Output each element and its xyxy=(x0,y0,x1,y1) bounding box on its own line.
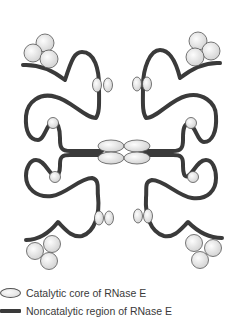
catalytic-core-upper-right xyxy=(124,140,150,152)
legend-label: Noncatalytic region of RNase E xyxy=(26,305,172,317)
thick-line-icon xyxy=(0,302,24,320)
ball-top-left-2 xyxy=(24,44,42,62)
ball-mid-lower-left xyxy=(50,172,61,183)
noncatalytic-strand-top-right xyxy=(140,50,220,151)
ball-bottom-left-1 xyxy=(44,236,61,253)
oval-pair-bottom-left-a xyxy=(95,211,104,225)
catalytic-core-lower-left xyxy=(98,152,124,164)
catalytic-core-lower-right xyxy=(124,152,150,164)
oval-pair-bottom-right-a xyxy=(134,209,143,223)
oval-pair-top-left-b xyxy=(104,78,113,92)
ball-top-left-3 xyxy=(40,50,58,68)
legend-item-catalytic-core: Catalytic core of RNase E xyxy=(0,284,243,302)
legend-item-noncatalytic-region: Noncatalytic region of RNase E xyxy=(0,302,243,320)
oval-icon xyxy=(0,284,24,302)
ball-bottom-right-1 xyxy=(186,235,203,252)
ball-bottom-left-2 xyxy=(27,243,44,260)
ball-bottom-right-2 xyxy=(205,240,222,257)
rnase-e-diagram xyxy=(0,0,243,285)
oval-pair-bottom-right-b xyxy=(144,209,153,223)
ball-bottom-left-3 xyxy=(41,253,58,270)
ball-top-right-3 xyxy=(186,48,204,66)
oval-pair-top-right-b xyxy=(143,77,152,91)
legend-label: Catalytic core of RNase E xyxy=(26,287,146,299)
noncatalytic-strand-bottom-left xyxy=(26,155,102,240)
ball-mid-upper-left xyxy=(48,118,59,129)
oval-pair-top-right-a xyxy=(133,77,142,91)
ball-mid-upper-right xyxy=(186,118,197,129)
ball-bottom-right-3 xyxy=(192,252,209,269)
ball-mid-lower-right xyxy=(188,172,199,183)
oval-pair-bottom-left-b xyxy=(105,211,114,225)
oval-pair-top-left-a xyxy=(93,78,102,92)
catalytic-core-upper-left xyxy=(98,140,124,152)
noncatalytic-strand-top-left xyxy=(23,52,102,151)
noncatalytic-strand-bottom-right xyxy=(140,155,222,238)
ball-top-right-2 xyxy=(202,42,220,60)
